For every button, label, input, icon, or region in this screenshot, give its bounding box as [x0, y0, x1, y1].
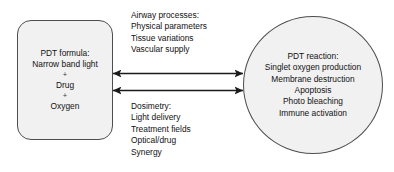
pdt-reaction-circle: PDT reaction: Singlet oxygen production … [243, 16, 383, 154]
pdt-formula-plus-2: + [63, 91, 67, 101]
dosimetry-heading: Dosimetry: [131, 101, 191, 112]
pdt-formula-line-3: Oxygen [51, 101, 80, 112]
dosimetry-line-1: Light delivery [131, 112, 191, 123]
pdt-formula-plus-1: + [63, 70, 67, 80]
airway-processes-line-3: Vascular supply [131, 44, 207, 55]
pdt-reaction-line-5: Immune activation [279, 108, 347, 119]
pdt-reaction-line-3: Apoptosis [295, 85, 332, 96]
dosimetry-line-2: Treatment fields [131, 124, 191, 135]
pdt-formula-line-2: Drug [56, 80, 74, 91]
pdt-formula-box-content: PDT formula: Narrow band light + Drug + … [18, 21, 112, 139]
airway-processes-heading: Airway processes: [131, 10, 207, 21]
pdt-formula-box: PDT formula: Narrow band light + Drug + … [17, 20, 113, 140]
pdt-formula-heading: PDT formula: [40, 48, 89, 59]
pdt-reaction-line-4: Photo bleaching [283, 96, 343, 107]
pdt-reaction-heading: PDT reaction: [287, 51, 338, 62]
pdt-reaction-line-2: Membrane destruction [271, 74, 354, 85]
pdt-formula-line-1: Narrow band light [32, 59, 98, 70]
pdt-reaction-line-1: Singlet oxygen production [265, 62, 361, 73]
pdt-reaction-circle-content: PDT reaction: Singlet oxygen production … [244, 17, 382, 153]
dosimetry-line-4: Synergy [131, 147, 191, 158]
dosimetry-line-3: Optical/drug [131, 135, 191, 146]
airway-processes-line-1: Physical parameters [131, 21, 207, 32]
airway-processes-line-2: Tissue variations [131, 33, 207, 44]
airway-processes-label: Airway processes: Physical parameters Ti… [131, 10, 207, 56]
diagram-canvas: PDT formula: Narrow band light + Drug + … [0, 0, 394, 172]
dosimetry-label: Dosimetry: Light delivery Treatment fiel… [131, 101, 191, 158]
